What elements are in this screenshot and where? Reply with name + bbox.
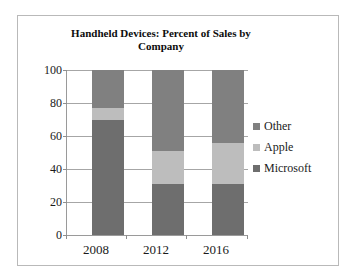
bar-segment-2012-other (152, 70, 184, 151)
bar-segment-2008-other (92, 70, 124, 108)
y-tickmark-80 (63, 103, 67, 104)
legend-item-microsoft: Microsoft (253, 158, 339, 179)
plot-wrapper: 100 80 60 40 20 0 (18, 16, 340, 267)
legend-label-microsoft: Microsoft (264, 161, 311, 176)
chart-frame: Handheld Devices: Percent of Sales by Co… (17, 15, 339, 266)
legend-swatch-apple-icon (253, 144, 260, 151)
bar-segment-2012-microsoft (152, 184, 184, 235)
y-tick-label-20: 20 (24, 196, 62, 208)
x-axis-line (66, 235, 248, 236)
legend-item-other: Other (253, 116, 339, 137)
bar-2016 (212, 70, 244, 235)
bar-segment-2008-apple (92, 108, 124, 120)
y-tick-label-40: 40 (24, 163, 62, 175)
bar-segment-2016-microsoft (212, 184, 244, 235)
x-tick-label-2012: 2012 (126, 242, 186, 258)
bar-segment-2008-microsoft (92, 120, 124, 236)
y-tickmark-60 (63, 136, 67, 137)
x-tickmark-start (66, 235, 67, 239)
bar-segment-2012-apple (152, 151, 184, 184)
y-tick-label-100: 100 (24, 64, 62, 76)
bar-2012 (152, 70, 184, 235)
legend-swatch-other-icon (253, 123, 260, 130)
legend-label-other: Other (264, 119, 291, 134)
x-tickmark-2 (186, 235, 187, 239)
chart-legend: Other Apple Microsoft (253, 116, 339, 179)
chart-screenshot: Handheld Devices: Percent of Sales by Co… (0, 0, 353, 278)
y-tickmark-40 (63, 169, 67, 170)
x-tick-label-2008: 2008 (66, 242, 126, 258)
bar-segment-2016-apple (212, 143, 244, 184)
bar-segment-2016-other (212, 70, 244, 143)
y-axis-tick-labels: 100 80 60 40 20 0 (24, 16, 62, 267)
y-tickmark-20 (63, 202, 67, 203)
plot-area (66, 70, 247, 235)
legend-label-apple: Apple (264, 140, 293, 155)
bar-2008 (92, 70, 124, 235)
x-tick-label-2016: 2016 (186, 242, 246, 258)
y-tickmark-100 (63, 70, 67, 71)
legend-swatch-microsoft-icon (253, 165, 260, 172)
y-tick-label-0: 0 (24, 229, 62, 241)
x-tickmark-end (247, 235, 248, 239)
y-tick-label-80: 80 (24, 97, 62, 109)
y-tick-label-60: 60 (24, 130, 62, 142)
x-tickmark-1 (126, 235, 127, 239)
legend-item-apple: Apple (253, 137, 339, 158)
